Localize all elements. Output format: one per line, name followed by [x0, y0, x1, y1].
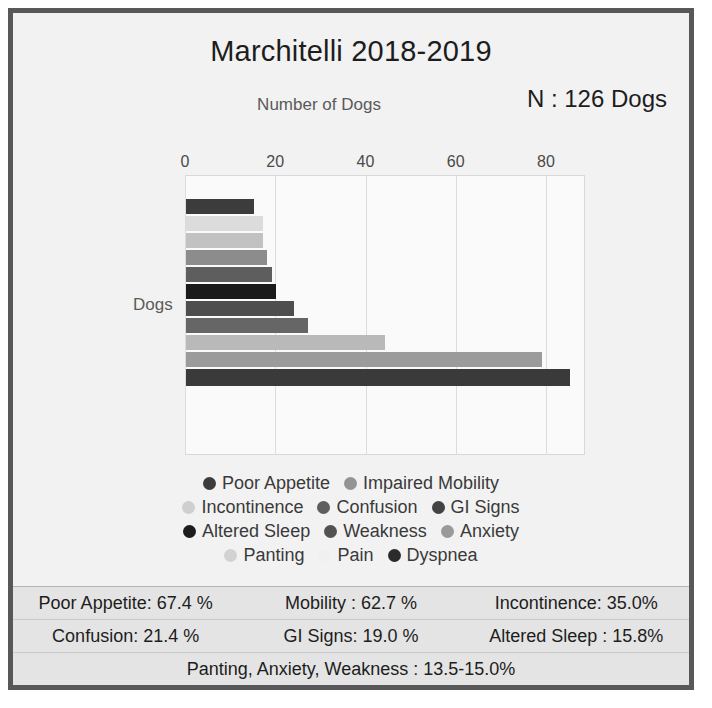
bar	[186, 369, 570, 386]
legend-row: Altered SleepWeaknessAnxiety	[13, 521, 689, 542]
x-axis-title: Number of Dogs	[8, 95, 657, 115]
legend-item[interactable]: Dyspnea	[388, 545, 478, 566]
bar	[186, 301, 294, 316]
stat-cell: Panting, Anxiety, Weakness : 13.5-15.0%	[187, 659, 516, 680]
x-tick-label: 0	[181, 153, 190, 171]
legend-label: Impaired Mobility	[363, 473, 499, 494]
legend-row: PantingPainDyspnea	[13, 545, 689, 566]
stat-cell: Altered Sleep : 15.8%	[464, 626, 689, 647]
legend-label: Dyspnea	[407, 545, 478, 566]
y-axis-label: Dogs	[133, 295, 173, 315]
legend-swatch-icon	[203, 477, 216, 490]
legend-item[interactable]: Anxiety	[441, 521, 519, 542]
stats-row: Confusion: 21.4 %GI Signs: 19.0 %Altered…	[13, 620, 689, 653]
x-tick-label: 40	[357, 153, 375, 171]
legend-item[interactable]: Confusion	[317, 497, 417, 518]
bar	[186, 284, 276, 299]
stat-cell: Confusion: 21.4 %	[13, 626, 238, 647]
bar	[186, 233, 263, 248]
x-tick-label: 20	[266, 153, 284, 171]
x-tick-label: 80	[537, 153, 555, 171]
stats-panel: Poor Appetite: 67.4 %Mobility : 62.7 %In…	[13, 586, 689, 685]
bar	[186, 216, 263, 231]
legend-item[interactable]: Poor Appetite	[203, 473, 330, 494]
legend-label: Anxiety	[460, 521, 519, 542]
legend-row: Poor AppetiteImpaired Mobility	[13, 473, 689, 494]
legend-label: GI Signs	[451, 497, 520, 518]
legend-item[interactable]: Altered Sleep	[183, 521, 310, 542]
gridline	[456, 175, 457, 455]
legend-item[interactable]: Pain	[318, 545, 373, 566]
stats-row: Poor Appetite: 67.4 %Mobility : 62.7 %In…	[13, 587, 689, 620]
legend-label: Poor Appetite	[222, 473, 330, 494]
legend-swatch-icon	[183, 525, 196, 538]
legend-item[interactable]: Impaired Mobility	[344, 473, 499, 494]
legend-swatch-icon	[224, 549, 237, 562]
gridline	[546, 175, 547, 455]
bar	[186, 318, 308, 333]
stat-cell: GI Signs: 19.0 %	[238, 626, 463, 647]
bar	[186, 267, 272, 282]
legend-item[interactable]: Incontinence	[182, 497, 303, 518]
legend-swatch-icon	[432, 501, 445, 514]
stat-cell: Poor Appetite: 67.4 %	[13, 593, 238, 614]
legend-item[interactable]: GI Signs	[432, 497, 520, 518]
legend-swatch-icon	[388, 549, 401, 562]
legend-item[interactable]: Weakness	[324, 521, 427, 542]
legend-swatch-icon	[441, 525, 454, 538]
bar	[186, 199, 254, 214]
bar	[186, 352, 542, 367]
legend-swatch-icon	[318, 549, 331, 562]
x-tick-label: 60	[447, 153, 465, 171]
legend-label: Panting	[243, 545, 304, 566]
legend-item[interactable]: Panting	[224, 545, 304, 566]
legend-label: Incontinence	[201, 497, 303, 518]
legend-label: Pain	[337, 545, 373, 566]
legend-label: Weakness	[343, 521, 427, 542]
legend: Poor AppetiteImpaired MobilityIncontinen…	[13, 473, 689, 569]
legend-swatch-icon	[344, 477, 357, 490]
stat-cell: Mobility : 62.7 %	[238, 593, 463, 614]
legend-swatch-icon	[324, 525, 337, 538]
legend-swatch-icon	[182, 501, 195, 514]
legend-label: Altered Sleep	[202, 521, 310, 542]
figure-container: Marchitelli 2018-2019 N : 126 Dogs Numbe…	[8, 8, 694, 690]
gridline	[366, 175, 367, 455]
legend-swatch-icon	[317, 501, 330, 514]
bar	[186, 250, 267, 265]
bar	[186, 335, 385, 350]
chart-title: Marchitelli 2018-2019	[13, 35, 689, 68]
legend-label: Confusion	[336, 497, 417, 518]
plot-area: 020406080 Dogs	[185, 153, 585, 455]
stat-cell: Incontinence: 35.0%	[464, 593, 689, 614]
legend-row: IncontinenceConfusionGI Signs	[13, 497, 689, 518]
stats-row: Panting, Anxiety, Weakness : 13.5-15.0%	[13, 653, 689, 685]
